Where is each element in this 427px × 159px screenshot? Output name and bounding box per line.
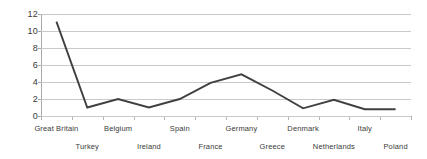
y-axis-tick-label: 12 <box>2 10 38 19</box>
x-axis-tick-label: Great Britain <box>34 124 78 133</box>
x-axis-tick-mark <box>257 117 258 120</box>
x-axis-tick-mark <box>226 117 227 120</box>
x-axis-tick-mark <box>411 117 412 120</box>
y-axis-tick-label: 4 <box>2 78 38 87</box>
x-axis-tick-label: Belgium <box>104 124 132 133</box>
x-axis-tick-mark <box>349 117 350 120</box>
x-axis-tick-label: Germany <box>225 124 257 133</box>
x-axis-tick-mark <box>164 117 165 120</box>
x-axis-tick-label: Denmark <box>287 124 318 133</box>
x-axis-tick-mark <box>319 117 320 120</box>
x-axis-tick-mark <box>134 117 135 120</box>
y-axis-tick-label: 8 <box>2 44 38 53</box>
x-axis-tick-label: Netherlands <box>313 142 355 151</box>
x-axis-tick-label: Poland <box>383 142 407 151</box>
x-axis-tick-mark <box>380 117 381 120</box>
x-axis-tick-label: Ireland <box>137 142 161 151</box>
y-axis-tick-label: 10 <box>2 27 38 36</box>
x-axis-tick-mark <box>195 117 196 120</box>
y-axis-tick-label: 6 <box>2 61 38 70</box>
y-axis-tick-labels: 024681012 <box>0 0 38 159</box>
x-axis-tick-label: France <box>198 142 222 151</box>
x-axis-tick-label: Italy <box>357 124 372 133</box>
series-line <box>41 14 411 116</box>
y-axis-tick-label: 0 <box>2 112 38 121</box>
x-axis-tick-mark <box>41 117 42 120</box>
x-axis-tick-mark <box>72 117 73 120</box>
x-axis-tick-label: Greece <box>260 142 286 151</box>
plot-area <box>41 14 411 116</box>
x-axis-tick-mark <box>288 117 289 120</box>
y-axis-tick-label: 2 <box>2 95 38 104</box>
series-polyline <box>56 22 395 110</box>
x-axis-tick-label: Spain <box>170 124 190 133</box>
x-axis-tick-label: Turkey <box>75 142 99 151</box>
line-chart: 024681012 Great BritainTurkeyBelgiumIrel… <box>0 0 427 159</box>
x-axis-tick-mark <box>103 117 104 120</box>
